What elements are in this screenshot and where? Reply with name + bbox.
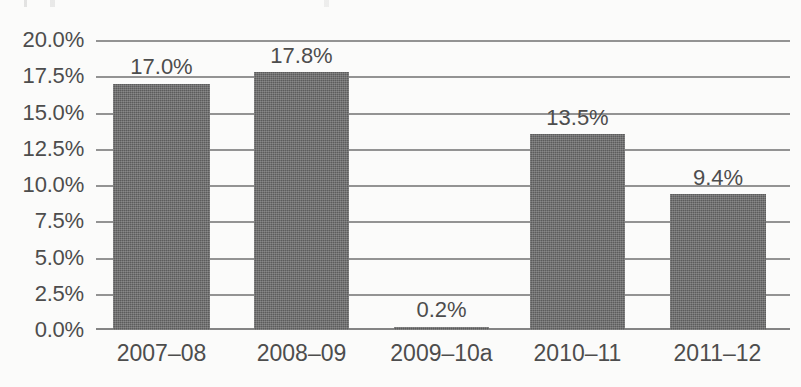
- y-tick-label: 5.0%: [0, 245, 84, 271]
- y-tick-label: 17.5%: [0, 63, 84, 89]
- y-tick-label: 15.0%: [0, 100, 84, 126]
- bar-2010-11[interactable]: [530, 134, 625, 330]
- x-tick-label-2008-09: 2008–09: [237, 340, 366, 367]
- bar-value-label: 17.8%: [220, 43, 383, 69]
- bar-value-label: 0.2%: [360, 297, 523, 323]
- y-tick-label: 7.5%: [0, 208, 84, 234]
- bar-2008-09[interactable]: [254, 72, 349, 330]
- y-tick-label: 2.5%: [0, 281, 84, 307]
- bar-slot-2011-12: 9.4%: [670, 40, 766, 330]
- bar-slot-2009-10a: 0.2%: [394, 40, 489, 330]
- y-tick-label: 10.0%: [0, 172, 84, 198]
- x-tick-label-2011-12: 2011–12: [653, 340, 782, 367]
- x-tick-label-2007-08: 2007–08: [97, 340, 226, 367]
- bar-2011-12[interactable]: [670, 194, 766, 330]
- y-tick-label: 12.5%: [0, 136, 84, 162]
- bar-chart: 20.0% 17.5% 15.0% 12.5% 10.0% 7.5% 5.0% …: [0, 0, 801, 387]
- bar-value-label: 9.4%: [636, 165, 800, 191]
- bar-value-label: 13.5%: [496, 105, 659, 131]
- bar-series: 17.0% 17.8% 0.2% 13.5% 9.4%: [96, 40, 790, 330]
- scan-artifact: [24, 0, 454, 7]
- bar-2009-10a[interactable]: [394, 327, 489, 331]
- x-tick-label-2009-10a: 2009–10a: [373, 340, 510, 367]
- y-tick-label: 20.0%: [0, 27, 84, 53]
- bar-slot-2010-11: 13.5%: [530, 40, 625, 330]
- bar-slot-2007-08: 17.0%: [113, 40, 210, 330]
- x-axis: 2007–08 2008–09 2009–10a 2010–11 2011–12: [96, 340, 790, 384]
- x-tick-label-2010-11: 2010–11: [513, 340, 642, 367]
- bar-slot-2008-09: 17.8%: [254, 40, 349, 330]
- y-axis: 20.0% 17.5% 15.0% 12.5% 10.0% 7.5% 5.0% …: [0, 40, 96, 330]
- bar-2007-08[interactable]: [113, 84, 210, 331]
- y-tick-label: 0.0%: [0, 317, 84, 343]
